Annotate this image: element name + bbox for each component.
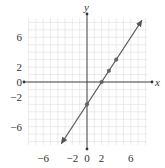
x-tick-label: −2 (67, 152, 79, 164)
y-tick-label: 2 (17, 61, 23, 73)
data-point (114, 58, 118, 62)
x-tick-label: −6 (37, 152, 49, 164)
x-axis-end-dot (151, 81, 154, 84)
data-point (107, 69, 111, 73)
x-axis-end-dot (23, 81, 26, 84)
y-axis-end-dot (86, 148, 89, 151)
y-tick-label: 0 (17, 76, 23, 88)
y-axis-end-dot (86, 13, 89, 16)
x-axis-label: x (154, 76, 160, 88)
y-tick-label: −6 (10, 121, 22, 133)
x-tick-label: 6 (128, 152, 134, 164)
y-axis-label: y (83, 1, 89, 13)
x-tick-label: 0 (84, 152, 90, 164)
grid (28, 18, 147, 145)
y-tick-label: 6 (17, 31, 23, 43)
data-point (100, 80, 104, 84)
coordinate-plane: xy −6−2026620−2−6 (0, 0, 165, 168)
x-tick-label: 2 (99, 152, 105, 164)
data-point (85, 103, 89, 107)
y-tick-label: −2 (10, 91, 22, 103)
